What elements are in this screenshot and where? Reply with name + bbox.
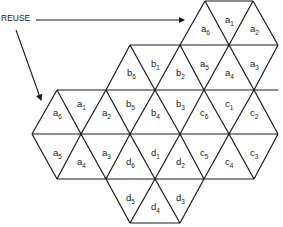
- triangle-tiling-diagram: a1a6a2b1b6b2a5a4a3a1a6a2b5b4b3c6c1c2a5a4…: [0, 0, 283, 227]
- cell-label-c4: c4: [225, 156, 234, 169]
- cell-label-a6: a6: [201, 23, 210, 36]
- cell-label-a1: a1: [225, 14, 234, 27]
- cell-label-a1b: a1: [77, 98, 86, 111]
- cell-label-a5b: a5: [53, 147, 62, 160]
- cell-label-b1: b1: [151, 58, 160, 71]
- cell-label-b3: b3: [176, 98, 185, 111]
- cell-label-d2: d2: [176, 156, 185, 169]
- cell-label-b4: b4: [151, 107, 160, 120]
- cell-label-d6: d6: [126, 156, 135, 169]
- cell-label-a2: a2: [250, 23, 259, 36]
- cell-label-d4: d4: [151, 201, 160, 214]
- cell-label-d5: d5: [126, 192, 135, 205]
- arrow-to-left-hexagon: [16, 30, 41, 100]
- cell-label-d3: d3: [176, 192, 185, 205]
- cell-label-a2b: a2: [102, 107, 111, 120]
- reuse-arrows: [16, 20, 184, 100]
- cell-label-a4b: a4: [77, 156, 86, 169]
- cell-label-a3: a3: [250, 58, 259, 71]
- cell-label-b2: b2: [176, 67, 185, 80]
- cell-label-c2: c2: [250, 107, 259, 120]
- cell-label-a3b: a3: [102, 147, 111, 160]
- cell-label-a4: a4: [225, 67, 234, 80]
- cell-label-b6: b6: [127, 67, 136, 80]
- cell-label-c5: c5: [200, 147, 209, 160]
- cell-label-c3: c3: [250, 147, 259, 160]
- cell-label-c1: c1: [225, 98, 234, 111]
- cell-label-c6: c6: [200, 107, 209, 120]
- cell-label-b5: b5: [126, 98, 135, 111]
- cell-label-a5: a5: [200, 58, 209, 71]
- cell-label-a6b: a6: [53, 107, 62, 120]
- cell-label-d1: d1: [151, 147, 160, 160]
